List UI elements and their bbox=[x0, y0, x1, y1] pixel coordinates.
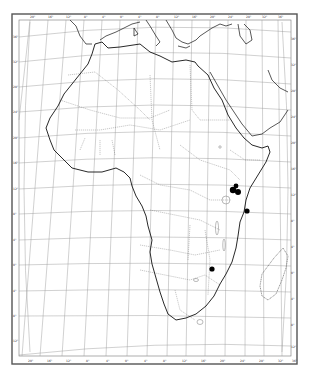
svg-text:12°: 12° bbox=[13, 187, 19, 191]
svg-text:12°: 12° bbox=[66, 15, 72, 19]
svg-text:36°: 36° bbox=[292, 359, 298, 363]
svg-text:24°: 24° bbox=[240, 359, 246, 363]
svg-text:36°: 36° bbox=[278, 15, 284, 19]
svg-text:32°: 32° bbox=[262, 15, 268, 19]
svg-text:16°: 16° bbox=[201, 359, 207, 363]
svg-text:16°: 16° bbox=[48, 15, 54, 19]
svg-text:16°: 16° bbox=[47, 359, 53, 363]
africa-coastline bbox=[46, 42, 270, 320]
arabia-coast bbox=[210, 70, 288, 136]
svg-text:28°: 28° bbox=[291, 89, 297, 93]
marker-kenya-b bbox=[235, 189, 241, 195]
svg-text:8°: 8° bbox=[291, 219, 295, 223]
map-outer-frame bbox=[12, 14, 297, 364]
marker-kenya-c bbox=[234, 184, 239, 189]
svg-text:20°: 20° bbox=[13, 136, 19, 140]
marker-mozambique bbox=[209, 266, 214, 271]
svg-text:12°: 12° bbox=[291, 193, 297, 197]
svg-text:8°: 8° bbox=[13, 212, 17, 216]
svg-text:24°: 24° bbox=[13, 110, 19, 114]
svg-text:36°: 36° bbox=[13, 35, 19, 39]
svg-text:8°: 8° bbox=[163, 359, 167, 363]
svg-text:4°: 4° bbox=[138, 15, 142, 19]
svg-text:20°: 20° bbox=[28, 359, 34, 363]
country-borders bbox=[60, 65, 260, 320]
svg-text:20°: 20° bbox=[291, 141, 297, 145]
svg-text:8°: 8° bbox=[86, 359, 90, 363]
svg-text:0°: 0° bbox=[291, 271, 295, 275]
svg-text:4°: 4° bbox=[102, 15, 106, 19]
svg-text:32°: 32° bbox=[278, 359, 284, 363]
svg-text:8°: 8° bbox=[291, 323, 295, 327]
svg-text:28°: 28° bbox=[13, 85, 19, 89]
svg-text:8°: 8° bbox=[84, 15, 88, 19]
svg-text:0°: 0° bbox=[13, 263, 17, 267]
svg-text:20°: 20° bbox=[30, 15, 36, 19]
lakes bbox=[194, 146, 231, 325]
svg-text:0°: 0° bbox=[125, 359, 129, 363]
svg-text:0°: 0° bbox=[120, 15, 124, 19]
svg-text:12°: 12° bbox=[182, 359, 188, 363]
svg-text:4°: 4° bbox=[13, 238, 17, 242]
svg-text:8°: 8° bbox=[13, 314, 17, 318]
svg-text:4°: 4° bbox=[13, 289, 17, 293]
svg-text:20°: 20° bbox=[220, 359, 226, 363]
madagascar bbox=[260, 248, 288, 300]
svg-text:4°: 4° bbox=[106, 359, 110, 363]
svg-text:32°: 32° bbox=[291, 63, 297, 67]
svg-text:16°: 16° bbox=[291, 167, 297, 171]
top-ticks: 20° 16° 12° 8° 4° 0° 4° 8° 12° 16° 20° 2… bbox=[30, 15, 284, 19]
bottom-ticks: 20° 16° 12° 8° 4° 0° 4° 8° 12° 16° 20° 2… bbox=[28, 359, 298, 363]
svg-text:36°: 36° bbox=[291, 37, 297, 41]
svg-text:8°: 8° bbox=[156, 15, 160, 19]
svg-text:32°: 32° bbox=[13, 60, 19, 64]
svg-text:12°: 12° bbox=[291, 345, 297, 349]
svg-text:16°: 16° bbox=[192, 15, 198, 19]
svg-text:4°: 4° bbox=[144, 359, 148, 363]
marker-coast-kenya bbox=[244, 208, 249, 213]
svg-text:20°: 20° bbox=[210, 15, 216, 19]
svg-text:24°: 24° bbox=[291, 115, 297, 119]
right-ticks: 36° 32° 28° 24° 20° 16° 12° 8° 4° 0° 4° … bbox=[291, 37, 297, 349]
svg-text:16°: 16° bbox=[13, 161, 19, 165]
svg-text:12°: 12° bbox=[66, 359, 72, 363]
svg-text:12°: 12° bbox=[13, 339, 19, 343]
africa-map: 20° 16° 12° 8° 4° 0° 4° 8° 12° 16° 20° 2… bbox=[0, 0, 319, 386]
svg-text:4°: 4° bbox=[291, 245, 295, 249]
svg-text:12°: 12° bbox=[174, 15, 180, 19]
svg-text:24°: 24° bbox=[228, 15, 234, 19]
svg-text:4°: 4° bbox=[291, 297, 295, 301]
svg-text:28°: 28° bbox=[259, 359, 265, 363]
left-ticks: 36° 32° 28° 24° 20° 16° 12° 8° 4° 0° 4° … bbox=[13, 35, 19, 343]
svg-text:28°: 28° bbox=[246, 15, 252, 19]
